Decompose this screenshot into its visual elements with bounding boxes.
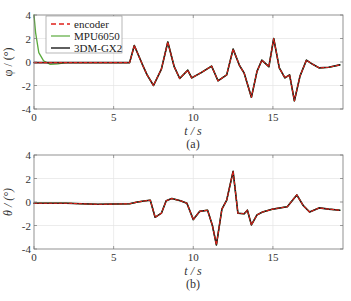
x-tick-label: 0 [31, 111, 37, 123]
x-tick-label: 0 [31, 251, 37, 263]
y-tick-label: 0 [26, 196, 32, 208]
y-tick-label: -2 [22, 80, 31, 92]
y-tick-label: 0 [26, 56, 32, 68]
x-tick-label: 10 [188, 111, 200, 123]
caption-a: (a) [186, 137, 199, 151]
x-axis-label-a: t / s [184, 124, 202, 138]
y-tick-label: 2 [26, 33, 32, 45]
legend-label-3dm-gx2: 3DM-GX2 [74, 42, 122, 54]
grid-b [34, 155, 343, 249]
y-axis-label-b: θ / (°) [1, 188, 15, 216]
y-tick-label: 4 [26, 9, 32, 21]
y-tick-label: -4 [22, 243, 32, 255]
x-axis-label-b: t / s [184, 264, 202, 278]
legend-label-mpu6050: MPU6050 [74, 30, 120, 42]
series-line-3dm-gx2 [34, 171, 340, 245]
y-tick-label: 2 [26, 173, 32, 185]
x-tick-label: 5 [111, 251, 117, 263]
ticks-b: 051015-4-2024 [22, 149, 343, 263]
y-axis-label-a: φ / (°) [1, 47, 15, 76]
caption-b: (b) [186, 277, 200, 291]
x-tick-label: 5 [111, 111, 117, 123]
figure: 051015-4-2024 φ / (°) t / s (a) encoder … [0, 0, 351, 301]
plot-panel-a: 051015-4-2024 φ / (°) t / s (a) encoder … [1, 9, 343, 151]
legend: encoder MPU6050 3DM-GX2 [46, 16, 122, 54]
series-b [34, 171, 340, 245]
y-tick-label: -2 [22, 220, 31, 232]
plot-panel-b: 051015-4-2024 θ / (°) t / s (b) [1, 149, 343, 291]
x-tick-label: 10 [188, 251, 200, 263]
series-line-encoder [34, 171, 340, 245]
x-tick-label: 15 [267, 111, 279, 123]
y-tick-label: 4 [26, 149, 32, 161]
y-tick-label: -4 [22, 103, 32, 115]
x-tick-label: 15 [267, 251, 279, 263]
legend-label-encoder: encoder [74, 18, 109, 30]
series-line-mpu6050 [34, 171, 340, 245]
